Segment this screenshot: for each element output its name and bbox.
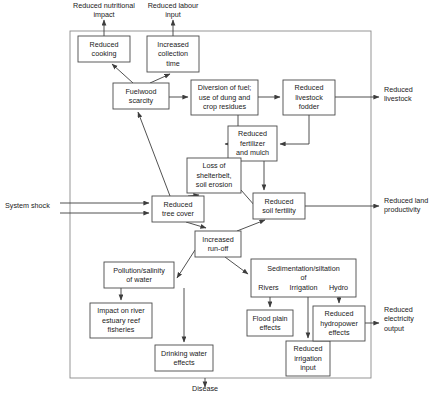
node-sublabel-sedimentation-siltation-0: Rivers <box>258 283 279 292</box>
label-reduced-electricity-output: Reducedelectricityoutput <box>384 305 414 333</box>
node-label-loss-of-shelterbelt: soil erosion <box>196 180 232 189</box>
node-label-increased-collection-time: Increased <box>157 40 189 49</box>
node-label-diversion-of-fuel: use of dung and <box>199 93 251 102</box>
node-label-increased-run-off: run-off <box>208 244 229 253</box>
label-text-disease: Disease <box>192 384 218 393</box>
node-label-flood-plain-effects: Flood plain <box>252 314 287 323</box>
node-drinking-water-effects[interactable]: Drinking watereffects <box>155 345 213 371</box>
node-reduced-fertilizer-and-mulch[interactable]: Reducedfertilizerand mulch <box>228 126 277 161</box>
node-label-reduced-livestock-fodder: Reduced <box>295 83 324 92</box>
label-reduced-nutritional-impact: Reduced nutritionalimpact <box>73 1 135 19</box>
node-label-increased-collection-time: time <box>166 59 180 68</box>
node-reduced-livestock-fodder[interactable]: Reducedlivestockfodder <box>283 80 335 115</box>
node-label-reduced-fertilizer-and-mulch: Reduced <box>238 129 267 138</box>
node-increased-run-off[interactable]: Increasedrun-off <box>195 231 241 257</box>
label-disease: Disease <box>192 384 218 393</box>
label-text-reduced-nutritional-impact: Reduced nutritional <box>73 1 135 10</box>
edge-run-off-to-sedimentation <box>225 257 248 274</box>
node-label-fuelwood-scarcity: scarcity <box>129 96 154 105</box>
node-label-reduced-livestock-fodder: livestock <box>295 93 323 102</box>
node-label-pollution-salinity-of-water: Pollution/salinity <box>113 266 165 275</box>
node-reduced-hydropower-effects[interactable]: Reducedhydropowereffects <box>313 306 365 341</box>
flowchart-svg: ReducedcookingIncreasedcollectiontimeFue… <box>0 0 437 394</box>
node-label-reduced-soil-fertility: Reduced <box>265 197 294 206</box>
node-label-reduced-tree-cover: tree cover <box>162 209 195 218</box>
node-sublabel-sedimentation-siltation-1: Irrigation <box>290 283 318 292</box>
node-label-reduced-cooking: Reduced <box>90 40 119 49</box>
node-label-loss-of-shelterbelt: shelterbelt, <box>196 171 231 180</box>
node-pollution-salinity-of-water[interactable]: Pollution/salinityof water <box>104 262 174 288</box>
node-label-drinking-water-effects: Drinking water <box>161 349 208 358</box>
node-label-fuelwood-scarcity: Fuelwood <box>125 87 156 96</box>
label-text-reduced-electricity-output: output <box>384 324 404 333</box>
node-label-reduced-hydropower-effects: effects <box>328 328 349 337</box>
node-impact-on-river-estuary-reef-fisheries[interactable]: Impact on riverestuary reeffisheries <box>90 303 152 338</box>
node-label-reduced-cooking: cooking <box>92 49 117 58</box>
node-increased-collection-time[interactable]: Increasedcollectiontime <box>147 36 199 72</box>
node-label-reduced-fertilizer-and-mulch: and mulch <box>236 148 269 157</box>
node-label-impact-on-river-estuary-reef-fisheries: estuary reef <box>102 316 140 325</box>
label-text-reduced-livestock: Reduced <box>384 85 413 94</box>
node-label-sedimentation-siltation: Sedimentation/siltation <box>267 264 339 273</box>
edge-tree-cover-to-run-off <box>186 222 206 228</box>
node-label-reduced-irrigation-input: irrigation <box>294 354 322 363</box>
node-label-reduced-hydropower-effects: Reduced <box>325 309 354 318</box>
node-label-reduced-soil-fertility: soil fertility <box>262 206 296 215</box>
node-label-impact-on-river-estuary-reef-fisheries: Impact on river <box>97 306 145 315</box>
label-text-reduced-electricity-output: Reduced <box>384 305 413 314</box>
label-text-reduced-land-productivity: Reduced land <box>384 196 428 205</box>
node-label-pollution-salinity-of-water: of water <box>126 275 152 284</box>
node-reduced-soil-fertility[interactable]: Reducedsoil fertility <box>253 193 305 219</box>
label-reduced-livestock: Reducedlivestock <box>384 85 413 103</box>
label-text-reduced-labour-input: Reduced labour <box>148 1 199 10</box>
label-text-reduced-electricity-output: electricity <box>384 314 414 323</box>
edge-tree-cover-to-fuelwood <box>138 112 170 196</box>
node-sublabel-sedimentation-siltation-2: Hydro <box>329 283 348 292</box>
node-reduced-cooking[interactable]: Reducedcooking <box>78 36 130 62</box>
node-fuelwood-scarcity[interactable]: Fuelwoodscarcity <box>113 83 169 109</box>
node-label-sedimentation-siltation: of <box>301 273 307 282</box>
edge-fuelwood-to-cooking <box>112 64 133 83</box>
edge-run-off-to-soil-fertility <box>237 220 265 231</box>
node-reduced-irrigation-input[interactable]: Reducedirrigationinput <box>286 341 330 376</box>
label-text-reduced-land-productivity: productivity <box>384 205 421 214</box>
node-label-reduced-irrigation-input: Reduced <box>294 344 323 353</box>
node-label-drinking-water-effects: effects <box>173 358 194 367</box>
label-text-system-shock: System shock <box>5 201 50 210</box>
node-reduced-tree-cover[interactable]: Reducedtree cover <box>152 196 204 222</box>
node-label-impact-on-river-estuary-reef-fisheries: fisheries <box>108 325 135 334</box>
label-system-shock: System shock <box>5 201 50 210</box>
node-diversion-of-fuel[interactable]: Diversion of fuel;use of dung andcrop re… <box>191 80 258 115</box>
edge-run-off-to-pollution <box>177 250 195 278</box>
node-label-diversion-of-fuel: Diversion of fuel; <box>198 83 252 92</box>
node-label-increased-collection-time: collection <box>158 49 188 58</box>
node-label-reduced-tree-cover: Reduced <box>164 200 193 209</box>
label-text-reduced-livestock: livestock <box>384 94 412 103</box>
node-label-flood-plain-effects: effects <box>259 323 280 332</box>
node-label-increased-run-off: Increased <box>202 235 234 244</box>
node-sedimentation-siltation[interactable]: Sedimentation/siltationofRiversIrrigatio… <box>251 259 356 297</box>
node-loss-of-shelterbelt[interactable]: Loss ofshelterbelt,soil erosion <box>187 158 241 193</box>
node-label-reduced-fertilizer-and-mulch: fertilizer <box>240 139 266 148</box>
edge-fuelwood-to-collection-time <box>150 74 170 83</box>
node-label-diversion-of-fuel: crop residues <box>203 102 247 111</box>
label-text-reduced-labour-input: input <box>165 10 181 19</box>
edge-livestock-fodder-to-fertilizer <box>280 115 309 144</box>
node-label-reduced-hydropower-effects: hydropower <box>320 319 358 328</box>
node-flood-plain-effects[interactable]: Flood plaineffects <box>247 310 293 336</box>
label-reduced-labour-input: Reduced labourinput <box>148 1 199 19</box>
label-text-reduced-nutritional-impact: impact <box>93 10 114 19</box>
node-label-reduced-livestock-fodder: fodder <box>299 102 320 111</box>
diagram-canvas: ReducedcookingIncreasedcollectiontimeFue… <box>0 0 437 394</box>
node-label-reduced-irrigation-input: input <box>300 363 316 372</box>
node-label-loss-of-shelterbelt: Loss of <box>202 161 225 170</box>
label-reduced-land-productivity: Reduced landproductivity <box>384 196 428 214</box>
